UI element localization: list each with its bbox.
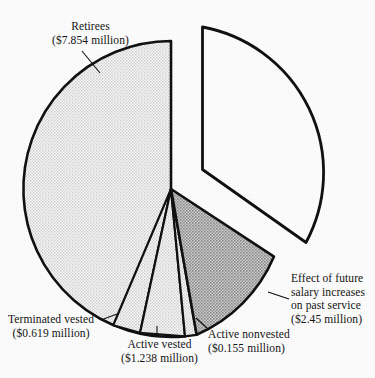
slice-label-active-vested-value: ($1.238 million)	[121, 352, 198, 366]
slice-label-active-nonvested-name: Active nonvested	[208, 328, 290, 342]
slice-label-effect-line2: salary increases	[291, 286, 365, 300]
slice-label-effect-of-future-salary-increases: Effect of future salary increases on pas…	[291, 272, 365, 326]
slice-label-active-vested-name: Active vested	[121, 338, 198, 352]
slice-label-terminated-vested-value: ($0.619 million)	[8, 327, 94, 341]
slice-label-retirees-name: Retirees	[52, 20, 129, 34]
slice-label-retirees-value: ($7.854 million)	[52, 34, 129, 48]
slice-label-effect-line1: Effect of future	[291, 272, 365, 286]
slice-label-active-vested: Active vested ($1.238 million)	[121, 338, 198, 365]
pie-slice-exploded-wedge	[203, 27, 324, 243]
leader-line-effect	[268, 292, 289, 299]
slice-label-effect-value: ($2.45 million)	[291, 313, 365, 327]
slice-label-active-nonvested-value: ($0.155 million)	[208, 342, 290, 356]
slice-label-active-nonvested: Active nonvested ($0.155 million)	[208, 328, 290, 355]
slice-label-retirees: Retirees ($7.854 million)	[52, 20, 129, 47]
pie-chart: Retirees ($7.854 million) Effect of futu…	[0, 0, 375, 378]
slice-label-terminated-vested-name: Terminated vested	[8, 313, 94, 327]
slice-label-terminated-vested: Terminated vested ($0.619 million)	[8, 313, 94, 340]
slice-label-effect-line3: on past service	[291, 299, 365, 313]
